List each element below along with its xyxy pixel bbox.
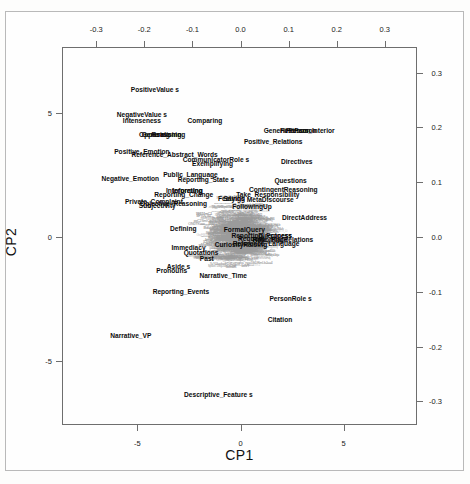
column-point-label: Reporting_State s: [178, 177, 234, 184]
x-top-tick-label: -0.3: [90, 25, 103, 34]
column-point-label: Citation: [268, 316, 293, 323]
x-bottom-tick: [137, 425, 138, 431]
column-point-label: Directives: [281, 159, 313, 166]
column-point-label: Defining: [170, 226, 196, 233]
x-bottom-tick-label: 5: [342, 439, 346, 448]
column-point-label: Saying: [223, 195, 245, 202]
column-point-label: Intenseness: [123, 118, 161, 125]
x-top-tick-label: 0.1: [283, 25, 293, 34]
y-right-tick: [417, 292, 423, 293]
column-point-label: Exemplifying: [192, 161, 233, 168]
x-bottom-tick-label: -5: [134, 439, 141, 448]
y-right-tick-label: 0.0: [432, 233, 442, 242]
x-bottom-tick: [241, 425, 242, 431]
column-point-label: Positive_Relations: [244, 139, 303, 146]
column-point-label: Reasoning: [151, 132, 185, 139]
column-point-label: PersonRole s: [269, 296, 311, 303]
x-top-tick-label: 0.3: [380, 25, 390, 34]
x-top-tick: [192, 41, 193, 47]
column-point-label: Objective_Reasoning: [140, 201, 207, 208]
y-right-tick: [417, 182, 423, 183]
column-point-label: Narrative_Time: [199, 273, 247, 280]
y-right-tick-label: 0.3: [432, 68, 442, 77]
plot-panel: Dga0tOEeve8pYHTlOdWCo_DKwEHCZmR8G6ekdBMF…: [62, 47, 417, 425]
x-bottom-tick: [344, 425, 345, 431]
y-right-tick-label: -0.1: [429, 287, 442, 296]
x-top-tick: [144, 41, 145, 47]
y-left-tick: [56, 113, 62, 114]
column-point-label: Comparing: [187, 118, 222, 125]
column-point-label: Person_Interior: [286, 128, 335, 135]
x-axis-title: CP1: [62, 447, 417, 463]
x-top-tick-label: 0.0: [235, 25, 245, 34]
y-left-tick: [56, 361, 62, 362]
column-point-label: Past: [200, 256, 214, 263]
y-axis-title: CP2: [3, 228, 19, 257]
column-point-label: DirectAddress: [282, 215, 327, 222]
y-right-tick-label: 0.1: [432, 178, 442, 187]
x-top-tick: [241, 41, 242, 47]
column-point-label: CuriosityRaising: [215, 242, 267, 249]
y-right-tick: [417, 347, 423, 348]
column-point-label: Negative_Emotion: [102, 176, 160, 183]
column-point-label: Narrative_VP: [110, 333, 151, 340]
column-point-label: Pronouns: [156, 268, 187, 275]
x-top-tick-label: 0.2: [331, 25, 341, 34]
y-left-tick-label: 5: [48, 108, 52, 117]
column-point-label: Reporting_Events: [153, 289, 209, 296]
y-right-tick-label: -0.2: [429, 342, 442, 351]
y-right-tick: [417, 401, 423, 402]
column-point-label: Questions: [274, 177, 306, 184]
y-right-tick: [417, 127, 423, 128]
y-left-tick-label: -5: [45, 357, 52, 366]
column-points-layer: PositiveValue sNegativeValue sIntensenes…: [63, 48, 416, 424]
x-top-tick: [96, 41, 97, 47]
x-bottom-tick-label: 0: [238, 439, 242, 448]
y-left-tick-label: 0: [48, 233, 52, 242]
column-point-label: Descriptive_Feature s: [184, 391, 253, 398]
x-top-tick: [289, 41, 290, 47]
y-right-tick-label: 0.2: [432, 123, 442, 132]
y-left-tick: [56, 237, 62, 238]
x-top-tick-label: -0.1: [186, 25, 199, 34]
column-point-label: Reporting_Change: [154, 192, 213, 199]
column-point-label: PositiveValue s: [131, 87, 179, 94]
y-right-tick: [417, 237, 423, 238]
figure-canvas: CP1 CP2 Dga0tOEeve8pYHTlOdWCo_DKwEHCZmR8…: [0, 0, 470, 484]
x-top-tick-label: -0.2: [138, 25, 151, 34]
x-top-tick: [337, 41, 338, 47]
y-right-tick-label: -0.3: [429, 397, 442, 406]
x-top-tick: [385, 41, 386, 47]
column-point-label: FollowingUp: [232, 204, 272, 211]
y-right-tick: [417, 73, 423, 74]
